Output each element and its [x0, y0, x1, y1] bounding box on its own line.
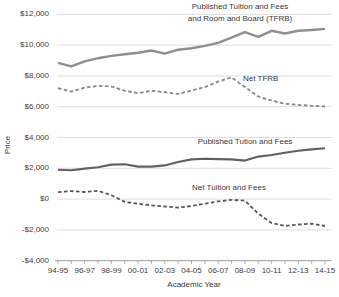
y-tick-label: $8,000: [25, 71, 50, 80]
x-tick-label: 94-95: [48, 266, 69, 275]
annotation-published-tfrb-line1: Published Tuition and Fees: [174, 2, 306, 12]
plot-area: $12,000$10,000$8,000$6,000$4,000$2,000$0…: [0, 0, 339, 297]
annotation-net-tfrb: Net TFRB: [243, 74, 278, 84]
x-axis-title: Academic Year: [57, 280, 331, 290]
series-line-published-tfrb: [58, 29, 325, 67]
x-tick-label: 00-01: [128, 266, 149, 275]
y-tick-label: $6,000: [25, 102, 50, 111]
series-line-published-tuition-fees: [58, 148, 325, 170]
y-axis-title: Price: [3, 130, 13, 160]
chart: $12,000$10,000$8,000$6,000$4,000$2,000$0…: [0, 0, 339, 297]
y-tick-label: -$2,000: [22, 225, 50, 234]
y-tick-label: $2,000: [25, 163, 50, 172]
x-tick-label: 04-05: [181, 266, 202, 275]
annotation-published-tfrb-line2: and Room and Board (TFRB): [170, 14, 310, 24]
x-tick-label: 98-99: [101, 266, 122, 275]
series-line-net-tfrb: [58, 77, 325, 106]
series-line-net-tuition-fees: [58, 191, 325, 226]
x-tick-label: 02-03: [155, 266, 176, 275]
x-tick-label: 14-15: [315, 266, 336, 275]
x-tick-label: 06-07: [208, 266, 229, 275]
annotation-published-tuition-fees: Published Tution and Fees: [180, 137, 310, 147]
y-tick-label: $10,000: [20, 40, 49, 49]
annotation-net-tuition-fees: Net Tuition and Fees: [168, 183, 290, 193]
x-tick-label: 08-09: [235, 266, 256, 275]
y-tick-label: $0: [40, 194, 49, 203]
y-tick-label: -$4,000: [22, 256, 50, 265]
y-tick-label: $12,000: [20, 9, 49, 18]
x-tick-label: 96-97: [74, 266, 95, 275]
x-tick-label: 12-13: [288, 266, 309, 275]
x-tick-label: 10-11: [262, 266, 282, 275]
y-tick-label: $4,000: [25, 133, 50, 142]
